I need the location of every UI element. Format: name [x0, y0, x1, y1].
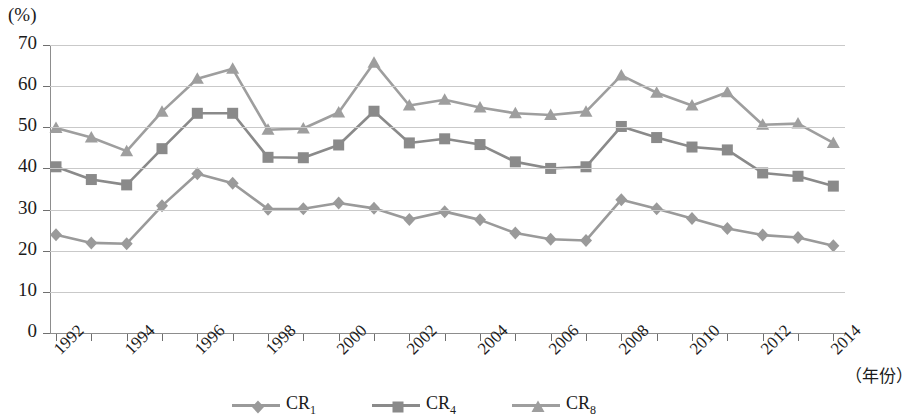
legend-marker-triangle-icon [531, 400, 545, 414]
legend-swatch-CR1 [232, 398, 280, 412]
legend-label-CR8: CR8 [566, 393, 596, 418]
legend-swatch-CR4 [372, 398, 420, 412]
y-tick-label: 50 [0, 114, 37, 136]
y-tick-mark [43, 333, 50, 334]
x-tick-mark [727, 334, 728, 341]
y-tick-mark [43, 45, 50, 46]
chart-legend: CR1CR4CR8 [232, 394, 672, 416]
legend-label-subscript: 4 [450, 402, 456, 416]
legend-swatch-CR8 [512, 398, 560, 412]
legend-marker-diamond-icon [251, 400, 265, 414]
legend-marker-square-icon [391, 400, 405, 414]
legend-label-base: CR [566, 393, 590, 413]
legend-label-subscript: 1 [310, 402, 316, 416]
data-point-marker [393, 402, 404, 413]
y-tick-label: 10 [0, 279, 37, 301]
y-tick-label: 40 [0, 155, 37, 177]
y-tick-label: 20 [0, 238, 37, 260]
x-tick-mark [445, 334, 446, 341]
y-tick-mark [43, 86, 50, 87]
y-tick-label: 60 [0, 73, 37, 95]
x-tick-mark [162, 334, 163, 341]
gridline-horizontal [50, 210, 845, 211]
chart-figure: (%) 010203040506070 19921994199619982000… [0, 0, 903, 418]
y-tick-mark [43, 210, 50, 211]
y-tick-label: 70 [0, 32, 37, 54]
legend-label-base: CR [286, 393, 310, 413]
y-axis-unit-label: (%) [8, 4, 36, 26]
x-axis-title: （年份） [845, 362, 903, 387]
x-tick-mark [586, 334, 587, 341]
x-tick-mark [374, 334, 375, 341]
x-tick-mark [515, 334, 516, 341]
y-tick-mark [43, 127, 50, 128]
data-point-marker [252, 401, 264, 414]
legend-label-CR4: CR4 [426, 393, 456, 418]
legend-label-subscript: 8 [590, 402, 596, 416]
data-point-marker [532, 401, 545, 413]
gridline-horizontal [50, 127, 845, 128]
x-tick-mark [233, 334, 234, 341]
x-tick-mark [657, 334, 658, 341]
legend-entry-CR4[interactable]: CR4 [372, 393, 456, 418]
y-tick-label: 0 [0, 320, 37, 342]
y-tick-label: 30 [0, 197, 37, 219]
legend-label-base: CR [426, 393, 450, 413]
gridline-horizontal [50, 86, 845, 87]
x-tick-mark [303, 334, 304, 341]
x-tick-mark [798, 334, 799, 341]
gridline-horizontal [50, 45, 845, 46]
legend-entry-CR1[interactable]: CR1 [232, 393, 316, 418]
plot-area [50, 45, 845, 333]
y-tick-mark [43, 251, 50, 252]
legend-entry-CR8[interactable]: CR8 [512, 393, 596, 418]
y-tick-mark [43, 168, 50, 169]
x-tick-mark [91, 334, 92, 341]
gridline-horizontal [50, 251, 845, 252]
gridline-horizontal [50, 292, 845, 293]
legend-label-CR1: CR1 [286, 393, 316, 418]
y-tick-mark [43, 292, 50, 293]
gridline-horizontal [50, 168, 845, 169]
